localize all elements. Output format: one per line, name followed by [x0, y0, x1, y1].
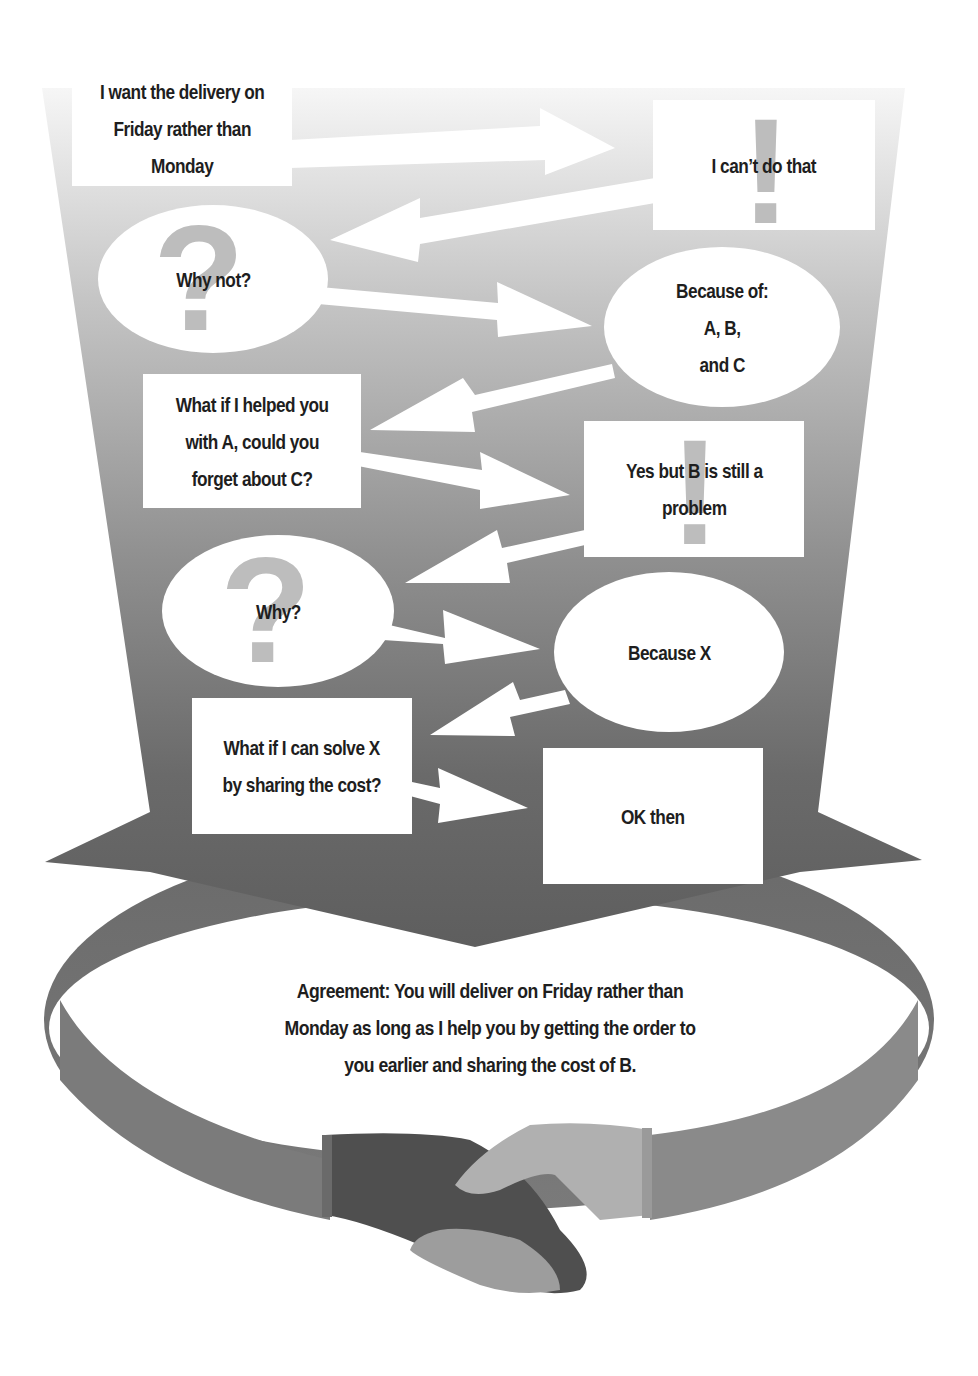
node-text: Because of: A, B, and C — [676, 272, 768, 383]
node-help-with-a: What if I helped you with A, could you f… — [143, 374, 361, 508]
node-text: Why not? — [176, 261, 250, 298]
node-text: OK then — [621, 798, 685, 835]
node-text: Because X — [628, 634, 711, 671]
node-why: ? Why? — [162, 535, 394, 687]
node-ok-then: OK then — [543, 748, 763, 884]
agreement-text: Agreement: You will deliver on Friday ra… — [246, 972, 733, 1083]
node-text: I want the delivery on Friday rather tha… — [100, 73, 264, 184]
node-because-abc: Because of: A, B, and C — [604, 247, 840, 407]
node-text: What if I can solve X by sharing the cos… — [223, 729, 382, 803]
node-text: Yes but B is still a problem — [626, 452, 763, 526]
negotiation-diagram: I want the delivery on Friday rather tha… — [0, 0, 978, 1376]
node-solve-x: What if I can solve X by sharing the cos… — [192, 698, 412, 834]
node-why-not: ? Why not? — [98, 205, 328, 353]
node-text: What if I helped you with A, could you f… — [176, 386, 329, 497]
node-cant-do-that: ! I can’t do that — [653, 100, 875, 230]
node-because-x: Because X — [554, 572, 784, 732]
node-b-still-problem: ! Yes but B is still a problem — [584, 421, 804, 557]
node-text: Why? — [256, 593, 301, 630]
node-delivery-request: I want the delivery on Friday rather tha… — [72, 70, 292, 186]
node-text: I can’t do that — [712, 147, 817, 184]
